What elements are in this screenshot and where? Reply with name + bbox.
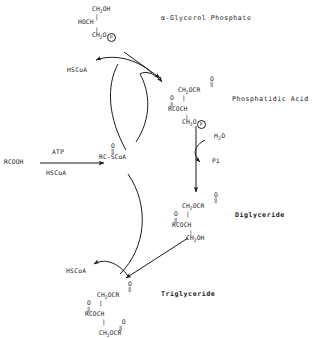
label-phosphatidic-acid: Phosphatidic Acid xyxy=(232,96,309,103)
tg-c3: CH xyxy=(99,329,107,336)
tg-c3-tail: OCR xyxy=(110,329,122,336)
arc-acylcoa-to-tg xyxy=(120,174,142,274)
dg-c1: CH xyxy=(182,202,190,209)
pa-c3: CH xyxy=(182,118,190,125)
gp-c3: CH xyxy=(92,31,100,38)
phosphate-group-icon: P xyxy=(107,33,117,43)
molecule-acyl-coa: O ‖ RC-SCoA xyxy=(99,143,126,162)
dg-c3-tail: OH xyxy=(197,234,205,241)
pa-c1-tail: OCR xyxy=(189,86,201,93)
pa-c3-tail: O xyxy=(193,118,197,125)
molecule-fatty-acid: RCOOH xyxy=(4,159,23,165)
molecule-glycerol-phosphate: CH2OH | HOCH | CH2OP xyxy=(78,6,116,40)
pa-c2: RCOCH xyxy=(168,106,214,114)
tg-c1: CH xyxy=(97,291,105,298)
pa-carbonyl-left-o: O xyxy=(170,94,174,101)
tg-c1-tail: OCR xyxy=(108,291,120,298)
tg-carbonyl-bottom-o: O xyxy=(122,318,126,325)
arrow-dg-to-tg xyxy=(126,238,188,278)
arrow-release-hscoa-top xyxy=(96,57,152,73)
cofactor-atp: ATP xyxy=(52,149,64,155)
molecule-diglyceride: O ‖ CH2OCR O| ‖ RCOCH | CH2OH xyxy=(172,192,218,243)
cofactor-hscoa-top: HSCoA xyxy=(67,67,87,73)
tg-carbonyl-left-o: O xyxy=(87,299,91,306)
gp-c3-tail: O xyxy=(103,31,107,38)
gp-c1: CH xyxy=(92,5,100,12)
cofactor-inorganic-phosphate: Pi xyxy=(212,158,220,164)
dg-carbonyl-left-o: O xyxy=(174,210,178,217)
arc-acylcoa-to-pa-top xyxy=(136,74,148,142)
cofactor-hscoa-activation: HSCoA xyxy=(46,170,66,176)
water-o: O xyxy=(221,132,225,139)
dg-c2: RCOCH xyxy=(172,222,218,230)
label-diglyceride: Diglyceride xyxy=(235,212,285,219)
cofactor-water: H2O xyxy=(214,133,225,141)
arc-upper-cycle-left xyxy=(110,64,126,150)
arrow-gp-to-pa xyxy=(124,52,160,78)
gp-c1-tail: OH xyxy=(103,5,111,12)
arrow-release-hscoa-bottom xyxy=(94,261,128,276)
molecule-triglyceride: O ‖ CH2OCR O| ‖ RCOCH |O ‖ CH2OCR xyxy=(83,281,132,338)
acylcoa-label: RC-SCoA xyxy=(99,154,126,162)
cofactor-hscoa-bottom: HSCoA xyxy=(66,268,86,274)
arc-acylcoa-to-pa-head xyxy=(140,72,162,82)
dg-c1-tail: OCR xyxy=(193,202,205,209)
label-glycerol-phosphate: α-Glycerol Phosphate xyxy=(161,15,251,22)
arrow-h2o-to-pi xyxy=(195,140,205,162)
dg-c3: CH xyxy=(186,234,194,241)
label-triglyceride: Triglyceride xyxy=(161,291,215,298)
pa-c1: CH xyxy=(178,86,186,93)
phosphate-group-icon: P xyxy=(197,120,207,130)
molecule-phosphatidic-acid: O ‖ CH2OCR O| ‖ RCOCH | CH2OP xyxy=(168,76,214,127)
